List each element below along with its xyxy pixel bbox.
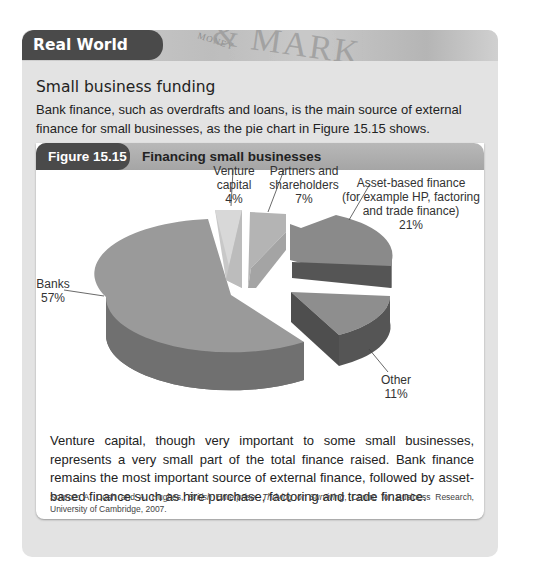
figure-box: Figure 15.15 Financing small businesses: [36, 143, 484, 519]
figure-header: Figure 15.15 Financing small businesses: [36, 143, 484, 170]
label-asset-based: Asset-based finance (for example HP, fac…: [336, 176, 486, 232]
label-partners: Partners and shareholders 7%: [264, 164, 344, 206]
section-title: Small business funding: [36, 78, 215, 96]
figure-number: Figure 15.15: [36, 143, 130, 170]
source-title: British Enterprise: Thriving or Survivin…: [188, 492, 344, 502]
real-world-label: Real World 15.17: [22, 30, 163, 60]
label-line: Banks: [34, 277, 72, 291]
label-line: Asset-based finance: [336, 176, 486, 190]
label-value: 21%: [336, 218, 486, 232]
banner-newspaper-image: & MARK: [210, 30, 363, 61]
intro-paragraph: Bank finance, such as overdrafts and loa…: [36, 100, 486, 138]
label-value: 7%: [264, 192, 344, 206]
label-line: shareholders: [264, 178, 344, 192]
figure-source: Source: A. Cosh and A. Hughes, British E…: [50, 491, 474, 515]
source-prefix: Source: A. Cosh and A. Hughes,: [50, 492, 188, 502]
label-line: Other: [376, 373, 416, 387]
pie-chart: Venture capital 4% Partners and sharehol…: [36, 170, 484, 440]
label-banks: Banks 57%: [34, 277, 72, 305]
label-line: Partners and: [264, 164, 344, 178]
label-other: Other 11%: [376, 373, 416, 401]
label-line: and trade finance): [336, 204, 486, 218]
label-value: 57%: [34, 291, 72, 305]
real-world-header: MONEY & MARK Real World 15.17: [22, 30, 498, 61]
label-venture-capital: Venture capital 4%: [212, 164, 256, 206]
label-value: 4%: [212, 192, 256, 206]
label-line: Venture: [212, 164, 256, 178]
label-line: capital: [212, 178, 256, 192]
label-line: (for example HP, factoring: [336, 190, 486, 204]
label-value: 11%: [376, 387, 416, 401]
